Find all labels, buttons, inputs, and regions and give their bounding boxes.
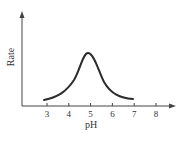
x-tick-label: 8 [154,109,159,119]
x-tick-label: 7 [132,109,137,119]
x-tick-label: 3 [45,109,50,119]
x-tick-labels: 345678 [45,109,159,119]
x-axis-arrow-icon [169,104,176,109]
rate-vs-ph-chart: 345678 pH Rate [0,0,179,141]
x-tick-label: 4 [67,109,72,119]
rate-curve [44,53,133,100]
x-tick-label: 6 [110,109,115,119]
y-axis-label: Rate [5,47,16,66]
y-axis-arrow-icon [20,11,25,18]
x-tick-label: 5 [88,109,93,119]
x-axis-label: pH [85,119,97,130]
